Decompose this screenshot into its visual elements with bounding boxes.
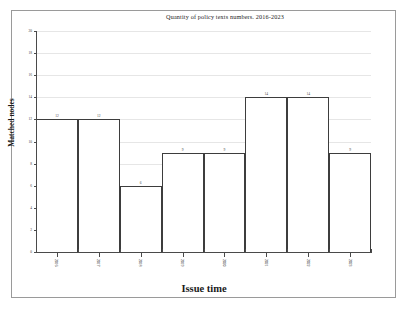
x-tick-label: 2020: [222, 259, 227, 266]
x-boundary-tick: [120, 249, 121, 253]
gridline: [36, 31, 371, 32]
bar-2016: [36, 119, 78, 252]
y-axis: 02468101214161820: [36, 31, 37, 253]
y-tick-mark: [34, 119, 37, 120]
y-tick-label: 16: [29, 73, 33, 77]
x-boundary-tick: [78, 249, 79, 253]
bar-value-label: 6: [140, 181, 142, 185]
x-boundary-tick: [287, 249, 288, 253]
plot-area: 121269914149: [36, 31, 371, 252]
y-tick-mark: [34, 208, 37, 209]
x-tick-mark: [266, 253, 267, 257]
x-tick-label: 2023: [348, 259, 353, 266]
x-tick-mark: [224, 253, 225, 257]
bar-value-label: 9: [182, 148, 184, 152]
bar-value-label: 14: [265, 92, 269, 96]
x-tick-mark: [99, 253, 100, 257]
y-tick-label: 18: [29, 51, 33, 55]
x-tick-label: 2018: [138, 259, 143, 266]
x-tick-label: 2019: [180, 259, 185, 266]
y-axis-title: Matched nodes: [7, 88, 16, 158]
x-tick-mark: [141, 253, 142, 257]
bar-2019: [162, 153, 204, 252]
x-boundary-tick: [329, 249, 330, 253]
y-tick-mark: [34, 75, 37, 76]
y-tick-label: 10: [29, 140, 33, 144]
y-tick-mark: [34, 97, 37, 98]
figure-canvas: Quantity of policy texts numbers. 2016-2…: [0, 0, 408, 317]
y-tick-mark: [34, 53, 37, 54]
x-tick-label: 2017: [96, 259, 101, 266]
x-axis: 20162017201820192020202120222023: [36, 252, 372, 253]
bar-2018: [120, 186, 162, 252]
x-boundary-tick: [245, 249, 246, 253]
x-boundary-tick: [162, 249, 163, 253]
y-tick-label: 20: [29, 29, 33, 33]
x-boundary-tick: [371, 249, 372, 253]
y-tick-mark: [34, 31, 37, 32]
bar-2020: [204, 153, 246, 252]
y-tick-label: 2: [30, 228, 32, 232]
x-axis-title: Issue time: [36, 283, 372, 294]
y-tick-label: 12: [29, 117, 33, 121]
y-tick-mark: [34, 186, 37, 187]
y-tick-label: 4: [30, 206, 32, 210]
y-tick-mark: [34, 230, 37, 231]
bar-value-label: 12: [97, 114, 101, 118]
y-tick-label: 14: [29, 95, 33, 99]
x-boundary-tick: [204, 249, 205, 253]
y-tick-label: 8: [30, 162, 32, 166]
x-tick-label: 2022: [306, 259, 311, 266]
x-tick-label: 2021: [264, 259, 269, 266]
gridline: [36, 53, 371, 54]
bar-2021: [245, 97, 287, 252]
chart-title: Quantity of policy texts numbers. 2016-2…: [120, 13, 330, 20]
x-boundary-tick: [36, 249, 37, 253]
y-tick-label: 0: [30, 250, 32, 254]
bar-2023: [329, 153, 371, 252]
x-tick-label: 2016: [54, 259, 59, 266]
bar-2022: [287, 97, 329, 252]
bar-value-label: 9: [224, 148, 226, 152]
y-tick-mark: [34, 142, 37, 143]
bar-value-label: 14: [306, 92, 310, 96]
y-tick-mark: [34, 164, 37, 165]
x-tick-mark: [57, 253, 58, 257]
x-tick-mark: [183, 253, 184, 257]
x-tick-mark: [308, 253, 309, 257]
bar-value-label: 9: [349, 148, 351, 152]
bar-value-label: 12: [55, 114, 59, 118]
bar-2017: [78, 119, 120, 252]
y-tick-label: 6: [30, 184, 32, 188]
gridline: [36, 75, 371, 76]
x-tick-mark: [350, 253, 351, 257]
